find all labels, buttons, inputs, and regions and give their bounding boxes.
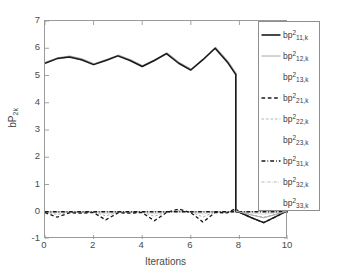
legend-item-32-k[interactable]: bp232,k [259,171,319,192]
legend-line-sample-31-k [261,156,281,166]
x-tick-10: 10 [275,240,299,250]
trace-bp13 [45,48,236,211]
plot-area [44,20,287,238]
legend-line-sample-23-k [261,135,281,145]
trace-bp12 [45,47,236,211]
legend-line-sample-12-k [261,51,281,61]
legend-label-32-k: bp232,k [283,175,308,189]
y-axis-label: bP2k [7,88,19,148]
legend-label-33-k: bp233,k [283,196,308,210]
legend-label-subscript: 22,k [296,117,308,124]
legend-item-23-k[interactable]: bp223,k [259,129,319,150]
legend-label-subscript: 12,k [296,54,308,61]
legend-label-31-k: bp231,k [283,154,308,168]
legend-label-subscript: 23,k [296,138,308,145]
legend-item-22-k[interactable]: bp222,k [259,108,319,129]
legend-line-sample-32-k [261,177,281,187]
legend-item-12-k[interactable]: bp212,k [259,45,319,66]
legend-item-21-k[interactable]: bp221,k [259,87,319,108]
figure-canvas: -101234567 0246810 Iterations bP2k bp211… [0,0,341,279]
trace-bp11 [45,48,236,212]
legend-box: bp211,kbp212,kbp213,kbp221,kbp222,kbp223… [258,21,320,211]
y-tick-5: 5 [8,70,40,80]
x-tick-2: 2 [81,240,105,250]
y-tick-2: 2 [8,151,40,161]
legend-label-11-k: bp211,k [283,28,308,42]
legend-label-subscript: 31,k [296,159,308,166]
y-tick-6: 6 [8,42,40,52]
y-tick-7: 7 [8,15,40,25]
legend-item-33-k[interactable]: bp233,k [259,192,319,213]
legend-item-11-k[interactable]: bp211,k [259,24,319,45]
x-tick-0: 0 [32,240,56,250]
legend-label-subscript: 13,k [296,75,308,82]
legend-item-31-k[interactable]: bp231,k [259,150,319,171]
legend-line-sample-21-k [261,93,281,103]
legend-label-subscript: 32,k [296,180,308,187]
x-tick-4: 4 [129,240,153,250]
legend-label-12-k: bp212,k [283,49,308,63]
x-tick-6: 6 [178,240,202,250]
legend-label-subscript: 33,k [296,201,308,208]
y-tick-1: 1 [8,179,40,189]
y-axis-label-main: bP [7,115,18,127]
x-tick-8: 8 [226,240,250,250]
y-axis-label-subscript: 2k [12,108,19,115]
x-axis-label: Iterations [44,256,287,267]
legend-label-23-k: bp223,k [283,133,308,147]
data-traces [45,21,288,239]
y-tick-0: 0 [8,206,40,216]
legend-label-21-k: bp221,k [283,91,308,105]
legend-label-13-k: bp213,k [283,70,308,84]
legend-line-sample-13-k [261,72,281,82]
legend-label-subscript: 21,k [296,96,308,103]
legend-label-subscript: 11,k [296,33,308,40]
legend-line-sample-33-k [261,198,281,208]
legend-item-13-k[interactable]: bp213,k [259,66,319,87]
legend-line-sample-11-k [261,30,281,40]
legend-line-sample-22-k [261,114,281,124]
legend-label-22-k: bp222,k [283,112,308,126]
